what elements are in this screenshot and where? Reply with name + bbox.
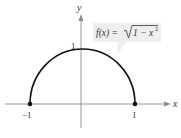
x-axis-arrow-icon	[164, 102, 171, 107]
right-endpoint-dot	[133, 102, 138, 107]
x-axis-label: x	[172, 98, 178, 109]
x-tick-neg1: −1	[22, 110, 32, 120]
function-curve	[30, 49, 135, 104]
x-tick-1: 1	[132, 110, 137, 120]
left-endpoint-dot	[28, 102, 33, 107]
label-pointer	[117, 42, 126, 55]
function-formula-exponent: 2	[155, 26, 158, 32]
function-formula-radicand: 1 − x	[133, 28, 154, 38]
semicircle-graph: y x 1 −1 1 f(x) = 1 − x 2	[0, 0, 181, 138]
y-axis-arrow-icon	[79, 14, 84, 21]
y-tick-1: 1	[71, 41, 76, 51]
function-formula-lhs: f(x) =	[96, 28, 118, 39]
y-axis-label: y	[76, 2, 82, 13]
